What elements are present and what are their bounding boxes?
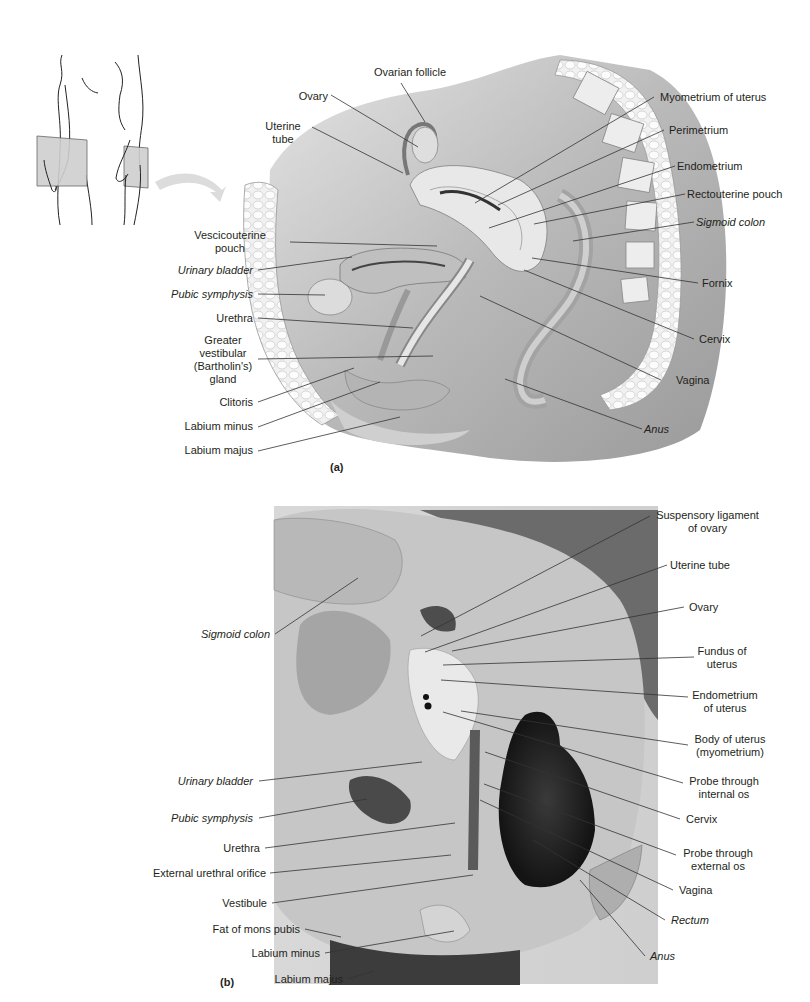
- label-b-probe-external-os: Probe through external os: [678, 847, 758, 873]
- label-myometrium-of-uterus: Myometrium of uterus: [660, 91, 766, 104]
- label-rectouterine-pouch: Rectouterine pouch: [687, 188, 782, 201]
- label-b-endometrium-of-uterus: Endometrium of uterus: [690, 689, 760, 715]
- label-b-labium-majus: Labium majus: [250, 973, 343, 986]
- label-vescicouterine-pouch: Vescicouterine pouch: [180, 229, 280, 255]
- label-fornix: Fornix: [702, 277, 733, 290]
- label-b-rectum: Rectum: [671, 914, 709, 927]
- label-b-labium-minus: Labium minus: [230, 947, 320, 960]
- label-perimetrium: Perimetrium: [669, 124, 728, 137]
- label-pubic-symphysis: Pubic symphysis: [150, 288, 253, 301]
- label-ovary: Ovary: [270, 90, 328, 103]
- label-b-sigmoid-colon: Sigmoid colon: [170, 628, 270, 641]
- label-uterine-tube: Uterine tube: [258, 120, 308, 146]
- label-b-fat-of-mons-pubis: Fat of mons pubis: [190, 923, 300, 936]
- label-b-body-of-uterus: Body of uterus (myometrium): [690, 733, 770, 759]
- label-b-external-urethral-orifice: External urethral orifice: [140, 867, 266, 880]
- label-b-uterine-tube: Uterine tube: [670, 559, 730, 572]
- label-b-fundus-of-uterus: Fundus of uterus: [692, 645, 752, 671]
- label-labium-minus: Labium minus: [150, 420, 253, 433]
- label-anus: Anus: [644, 423, 669, 436]
- label-b-cervix: Cervix: [686, 813, 717, 826]
- label-sigmoid-colon: Sigmoid colon: [696, 216, 765, 229]
- label-urinary-bladder: Urinary bladder: [150, 264, 253, 277]
- label-b-probe-internal-os: Probe through internal os: [684, 775, 764, 801]
- label-endometrium: Endometrium: [677, 160, 742, 173]
- label-b-ovary: Ovary: [689, 601, 718, 614]
- label-greater-vestibular-gland: Greater vestibular (Bartholin's) gland: [188, 334, 258, 386]
- label-urethra: Urethra: [150, 312, 253, 325]
- label-b-anus: Anus: [650, 950, 675, 963]
- label-b-vestibule: Vestibule: [150, 897, 267, 910]
- label-b-suspensory-ligament-of-ovary: Suspensory ligament of ovary: [650, 509, 765, 535]
- label-labium-majus: Labium majus: [150, 444, 253, 457]
- label-cervix: Cervix: [699, 333, 730, 346]
- label-vagina: Vagina: [676, 374, 709, 387]
- label-clitoris: Clitoris: [150, 396, 253, 409]
- label-b-urinary-bladder: Urinary bladder: [150, 775, 253, 788]
- label-b-pubic-symphysis: Pubic symphysis: [150, 812, 253, 825]
- label-ovarian-follicle: Ovarian follicle: [365, 66, 455, 79]
- label-b-urethra: Urethra: [150, 842, 260, 855]
- panel-b-letter: (b): [220, 976, 234, 988]
- panel-a-letter: (a): [330, 461, 343, 473]
- label-b-vagina: Vagina: [679, 884, 712, 897]
